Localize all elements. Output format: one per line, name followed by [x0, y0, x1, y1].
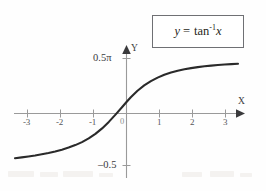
equation-function: tan	[193, 24, 209, 38]
x-tick-label-neg2: -2	[56, 118, 63, 127]
equation-text: y=tan-1x	[174, 25, 221, 38]
x-tick-label-3: 3	[223, 118, 227, 127]
origin-label: 0	[120, 117, 124, 126]
equation-box: y=tan-1x	[152, 15, 244, 48]
x-axis-arrowhead	[236, 109, 245, 118]
x-tick-label-2: 2	[190, 118, 194, 127]
y-axis-label-neg-half: –0.5	[98, 160, 116, 171]
x-tick-label-neg3: -3	[23, 118, 30, 127]
equation-argument: x	[216, 24, 222, 38]
x-tick-label-neg1: -1	[89, 118, 96, 127]
x-axis-letter: X	[238, 97, 245, 107]
y-axis-label-half-pi: 0.5π	[93, 53, 111, 64]
x-tick-label-1: 1	[157, 118, 161, 127]
arctan-figure: y=tan-1x -3 -2 -1 1 2 3 0 0.5π –0.5 Y X	[0, 0, 266, 191]
equation-exponent: -1	[209, 23, 216, 32]
y-axis-letter: Y	[131, 44, 138, 54]
equation-equals: =	[180, 24, 193, 38]
y-axis-arrowhead	[122, 45, 131, 54]
